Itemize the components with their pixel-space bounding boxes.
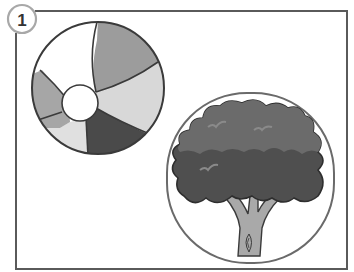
worksheet-card: 1 [0,0,354,272]
beach-ball-icon [30,20,170,160]
number-badge: 1 [8,5,36,33]
tree-icon [167,93,334,263]
badge-number: 1 [17,11,26,30]
